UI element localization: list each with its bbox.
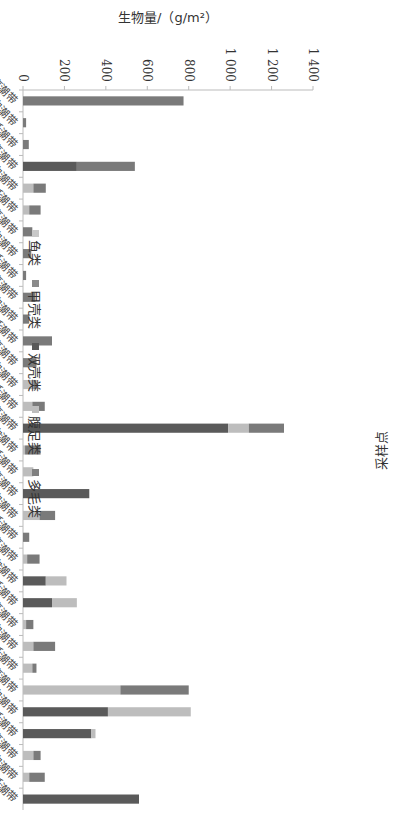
bar-segment-腹足类: [23, 205, 29, 214]
bar-segment-腹足类: [23, 642, 33, 651]
value-axis-title: 生物量/（g/m²）: [118, 10, 218, 25]
bar-segment-多毛类: [120, 685, 188, 694]
bar-segment-腹足类: [108, 707, 191, 716]
bar-segment-双壳类: [23, 576, 46, 585]
bar-segment-多毛类: [23, 140, 29, 149]
bar-segment-多毛类: [32, 664, 36, 673]
bar-segment-腹足类: [23, 751, 33, 760]
value-tick-label: 400: [99, 59, 113, 82]
bar-segment-双壳类: [23, 729, 91, 738]
bar-segment-腹足类: [228, 424, 249, 433]
bar-segment-腹足类: [91, 729, 95, 738]
stacked-bar-chart: 02004006008001 0001 2001 400生物量/（g/m²）红沙…: [0, 0, 418, 823]
legend-item: 双壳类: [27, 343, 46, 392]
legend-swatch-icon: [33, 406, 40, 413]
bar-segment-多毛类: [29, 205, 40, 214]
bar-segment-腹足类: [23, 773, 29, 782]
value-tick-label: 600: [140, 59, 154, 82]
bar-segment-腹足类: [23, 664, 32, 673]
legend-item: 鱼类: [27, 230, 46, 266]
bar-segment-多毛类: [27, 555, 39, 564]
bar-segment-腹足类: [23, 555, 27, 564]
bar-segment-双壳类: [23, 707, 108, 716]
legend-swatch-icon: [33, 280, 40, 287]
bar-segment-双壳类: [23, 598, 52, 607]
value-tick-label: 200: [57, 59, 71, 82]
bar-segment-腹足类: [23, 685, 120, 694]
legend-item: 腹足类: [27, 406, 46, 455]
legend-label: 腹足类: [27, 416, 46, 455]
bar-segment-腹足类: [23, 620, 26, 629]
bar-segment-腹足类: [23, 445, 25, 454]
bar-segment-多毛类: [77, 162, 135, 171]
legend-swatch-icon: [33, 230, 40, 237]
bar-segment-腹足类: [23, 184, 33, 193]
legend-label: 多毛类: [27, 479, 46, 518]
legend-label: 甲壳类: [27, 290, 46, 329]
bar-segment-腹足类: [52, 598, 77, 607]
chart-stage: 02004006008001 0001 2001 400生物量/（g/m²）红沙…: [0, 0, 418, 823]
legend-item: 甲壳类: [27, 280, 46, 329]
bar-segment-多毛类: [23, 533, 29, 542]
bar-segment-双壳类: [23, 795, 139, 804]
bar-segment-多毛类: [23, 96, 184, 105]
value-tick-label: 1 200: [265, 48, 279, 82]
bar-segment-腹足类: [46, 576, 67, 585]
bar-segment-多毛类: [23, 118, 26, 127]
bar-segment-双壳类: [23, 162, 77, 171]
bar-segment-多毛类: [33, 184, 45, 193]
bar-segment-多毛类: [33, 751, 40, 760]
legend-swatch-icon: [33, 343, 40, 350]
bar-segment-多毛类: [249, 424, 284, 433]
value-tick-label: 0: [16, 74, 30, 82]
legend-swatch-icon: [33, 469, 40, 476]
bar-segment-多毛类: [33, 642, 55, 651]
bar-segment-多毛类: [26, 620, 33, 629]
legend-label: 双壳类: [27, 353, 46, 392]
category-axis-title: 采样点: [374, 431, 389, 470]
bar-segment-多毛类: [29, 773, 45, 782]
value-tick-label: 800: [182, 59, 196, 82]
value-tick-label: 1 000: [223, 48, 237, 82]
legend: 鱼类甲壳类双壳类腹足类多毛类: [26, 230, 46, 518]
legend-item: 多毛类: [27, 469, 46, 518]
value-tick-label: 1 400: [306, 48, 320, 82]
legend-label: 鱼类: [27, 240, 46, 266]
bar-segment-双壳类: [23, 424, 228, 433]
